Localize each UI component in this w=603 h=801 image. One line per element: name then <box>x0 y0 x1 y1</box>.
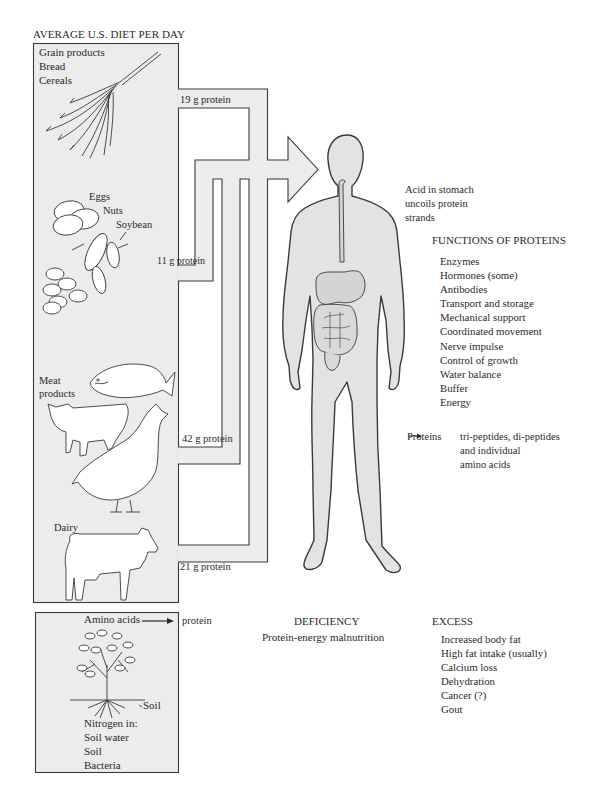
grain-source-labels: Grain products Bread Cereals <box>39 45 105 87</box>
function-item: Energy <box>440 395 542 409</box>
source-label-soybean: Soybean <box>116 218 152 232</box>
stomach-note-line: strands <box>405 211 474 225</box>
function-item: Antibodies <box>440 282 542 296</box>
protein-target-label: protein <box>182 614 212 628</box>
source-label: Grain products <box>39 45 105 59</box>
stomach-note-line: Acid in stomach <box>405 183 474 197</box>
stomach-note-line: uncoils protein <box>405 197 474 211</box>
source-label-eggs: Eggs <box>89 190 110 204</box>
function-item: Transport and storage <box>440 296 542 310</box>
function-item: Control of growth <box>440 353 542 367</box>
source-label: Cereals <box>39 73 105 87</box>
deficiency-title: DEFICIENCY <box>294 615 359 628</box>
function-item: Water balance <box>440 367 542 381</box>
dairy-protein-amount: 21 g protein <box>180 560 231 574</box>
functions-title: FUNCTIONS OF PROTEINS <box>432 234 566 247</box>
meat-protein-amount: 42 g protein <box>182 432 233 446</box>
source-label-nuts: Nuts <box>103 204 123 218</box>
source-label: Bread <box>39 59 105 73</box>
function-item: Coordinated movement <box>440 324 542 338</box>
excess-item: Cancer (?) <box>441 688 547 702</box>
function-item: Mechanical support <box>440 310 542 324</box>
meat-source-labels: Meat products <box>39 374 75 400</box>
excess-item: Calcium loss <box>441 660 547 674</box>
nitrogen-item: Soil <box>84 744 137 758</box>
eggs-protein-amount: 11 g protein <box>157 254 205 268</box>
breakdown-line: tri-peptides, di-peptides <box>460 430 560 444</box>
function-item: Hormones (some) <box>440 268 542 282</box>
excess-item: Increased body fat <box>441 632 547 646</box>
nitrogen-item: Soil water <box>84 730 137 744</box>
breakdown-from: Proteins <box>407 430 441 444</box>
stomach-note: Acid in stomach uncoils protein strands <box>405 183 474 224</box>
soil-label: Soil <box>143 699 161 712</box>
source-label-dairy: Dairy <box>54 521 78 535</box>
source-label: products <box>39 387 75 400</box>
breakdown-products: tri-peptides, di-peptides and individual… <box>460 430 560 471</box>
excess-item: Gout <box>441 702 547 716</box>
function-item: Enzymes <box>440 254 542 268</box>
excess-item: High fat intake (usually) <box>441 646 547 660</box>
nitrogen-sources: Nitrogen in: Soil water Soil Bacteria <box>84 716 137 772</box>
functions-list: Enzymes Hormones (some) Antibodies Trans… <box>440 254 542 409</box>
breakdown-line: and individual <box>460 444 560 458</box>
diagram-title: AVERAGE U.S. DIET PER DAY <box>33 28 185 41</box>
function-item: Buffer <box>440 381 542 395</box>
excess-list: Increased body fat High fat intake (usua… <box>441 632 547 716</box>
nitrogen-item: Bacteria <box>84 758 137 772</box>
excess-item: Dehydration <box>441 674 547 688</box>
grain-protein-amount: 19 g protein <box>180 93 231 107</box>
amino-acids-label: Amino acids <box>84 613 140 626</box>
breakdown-line: amino acids <box>460 458 560 472</box>
nitrogen-title: Nitrogen in: <box>84 716 137 730</box>
deficiency-item: Protein-energy malnutrition <box>262 631 384 645</box>
source-label: Meat <box>39 374 75 387</box>
excess-title: EXCESS <box>432 615 473 628</box>
function-item: Nerve impulse <box>440 339 542 353</box>
